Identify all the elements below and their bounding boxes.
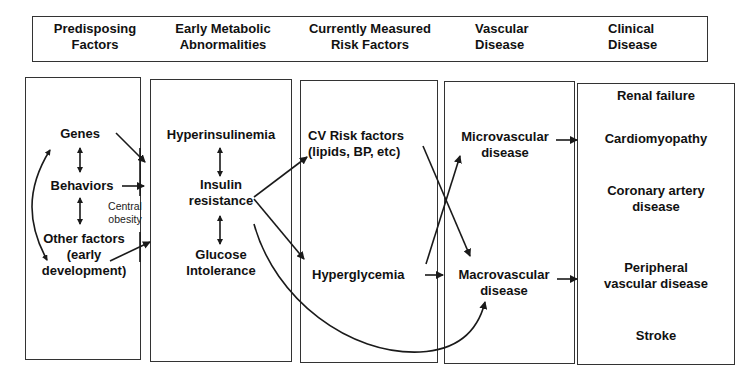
header-risk-factors-line2: Risk Factors — [300, 37, 440, 53]
clinical-coronary-artery-disease: Coronary artery disease — [577, 183, 735, 215]
node-microvascular: Microvascular disease — [455, 129, 555, 161]
header-predisposing-line2: Factors — [40, 37, 150, 53]
node-cv-risk-factors-line1: CV Risk factors — [308, 128, 432, 144]
column-early-metabolic — [150, 79, 292, 362]
node-macrovascular: Macrovascular disease — [450, 267, 558, 299]
header-vascular: Vascular Disease — [475, 21, 555, 53]
node-microvascular-line1: Microvascular — [455, 129, 555, 145]
header-risk-factors: Currently Measured Risk Factors — [300, 21, 440, 53]
label-central-obesity-line2: obesity — [100, 213, 150, 226]
node-behaviors: Behaviors — [44, 178, 120, 194]
header-predisposing: Predisposing Factors — [40, 21, 150, 53]
header-early-metabolic: Early Metabolic Abnormalities — [163, 21, 283, 53]
label-central-obesity-line1: Central — [100, 200, 150, 213]
clinical-peripheral-line1: Peripheral — [577, 260, 735, 276]
node-glucose-intolerance-line2: Intolerance — [180, 263, 262, 279]
node-other-factors-line3: development) — [34, 263, 134, 279]
node-hyperinsulinemia: Hyperinsulinemia — [155, 127, 287, 143]
clinical-renal-failure: Renal failure — [577, 88, 735, 104]
node-cv-risk-factors-line2: (lipids, BP, etc) — [308, 144, 432, 160]
node-glucose-intolerance: Glucose Intolerance — [180, 247, 262, 279]
column-clinical — [577, 83, 735, 365]
node-other-factors: Other factors (early development) — [34, 231, 134, 279]
node-cv-risk-factors: CV Risk factors (lipids, BP, etc) — [308, 128, 432, 160]
header-early-metabolic-line1: Early Metabolic — [163, 21, 283, 37]
header-early-metabolic-line2: Abnormalities — [163, 37, 283, 53]
clinical-coronary-line2: disease — [577, 199, 735, 215]
node-macrovascular-line2: disease — [450, 283, 558, 299]
clinical-peripheral-vascular-disease: Peripheral vascular disease — [577, 260, 735, 292]
node-macrovascular-line1: Macrovascular — [450, 267, 558, 283]
node-other-factors-line2: (early — [34, 247, 134, 263]
clinical-stroke: Stroke — [577, 328, 735, 344]
header-predisposing-line1: Predisposing — [40, 21, 150, 37]
column-risk-factors — [300, 80, 438, 363]
node-insulin-resistance-line2: resistance — [180, 193, 262, 209]
label-central-obesity: Central obesity — [100, 200, 150, 226]
node-glucose-intolerance-line1: Glucose — [180, 247, 262, 263]
node-hyperglycemia: Hyperglycemia — [312, 267, 412, 283]
clinical-cardiomyopathy: Cardiomyopathy — [577, 131, 735, 147]
header-vascular-line1: Vascular — [475, 21, 555, 37]
header-clinical-line2: Disease — [608, 37, 688, 53]
header-risk-factors-line1: Currently Measured — [300, 21, 440, 37]
header-clinical: Clinical Disease — [608, 21, 688, 53]
header-clinical-line1: Clinical — [608, 21, 688, 37]
node-microvascular-line2: disease — [455, 145, 555, 161]
node-other-factors-line1: Other factors — [34, 231, 134, 247]
column-vascular — [444, 81, 575, 364]
clinical-coronary-line1: Coronary artery — [577, 183, 735, 199]
clinical-peripheral-line2: vascular disease — [577, 276, 735, 292]
node-insulin-resistance: Insulin resistance — [180, 177, 262, 209]
node-genes: Genes — [55, 126, 105, 142]
header-vascular-line2: Disease — [475, 37, 555, 53]
node-insulin-resistance-line1: Insulin — [180, 177, 262, 193]
